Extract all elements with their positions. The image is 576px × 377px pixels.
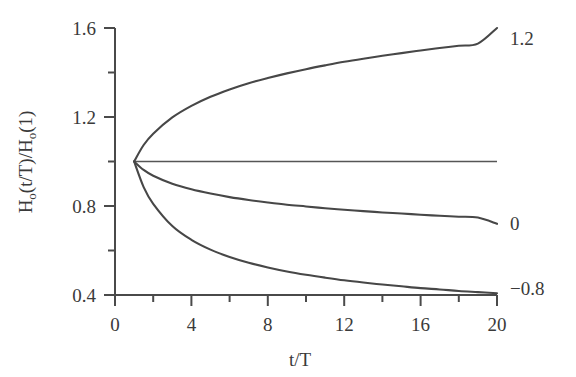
x-tick-label-2: 8	[263, 314, 273, 335]
y-tick-label-1: 0.8	[72, 196, 96, 217]
y-tick-label-0: 0.4	[72, 285, 96, 306]
x-tick-label-5: 20	[488, 314, 507, 335]
y-axis-title-mid: (t/T)/H	[15, 139, 37, 193]
x-axis-title: t/T	[289, 349, 312, 370]
y-tick-label-3: 1.6	[72, 18, 96, 39]
x-tick-label-0: 0	[110, 314, 120, 335]
series-label-neg-0-8: −0.8	[510, 278, 544, 299]
y-axis-title-h1: H	[15, 199, 36, 213]
chart-figure: 1.6 1.2 0.8 0.4 0 4 8 12 16 20 t/T Ho(t/…	[0, 0, 576, 377]
chart-svg: 1.6 1.2 0.8 0.4 0 4 8 12 16 20 t/T Ho(t/…	[0, 0, 576, 377]
series-label-0: 0	[510, 213, 520, 234]
x-tick-label-4: 16	[411, 314, 430, 335]
series-label-1-2: 1.2	[510, 28, 534, 49]
x-tick-label-1: 4	[187, 314, 197, 335]
y-axis-title-end: (1)	[15, 111, 37, 133]
x-tick-label-3: 12	[335, 314, 354, 335]
y-tick-label-2: 1.2	[72, 107, 96, 128]
